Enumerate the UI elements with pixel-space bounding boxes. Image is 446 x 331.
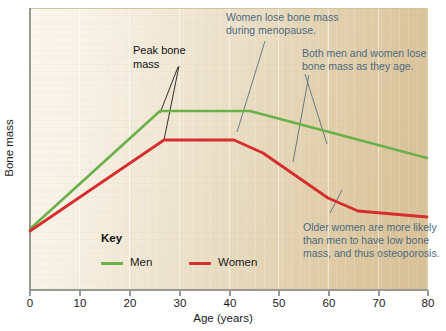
leader-line-aging-to-women	[293, 75, 309, 162]
annotation-osteoporosis: Older women are more likelythan men to h…	[303, 221, 440, 260]
annotation-peak-line1: Peak bone	[133, 44, 186, 56]
annotation-peak-bone-mass: Peak bonemass	[133, 44, 186, 71]
annotation-osteoporosis-line2: than men to have low bone	[303, 234, 429, 246]
leader-line-menopause	[237, 41, 265, 132]
series-line-women	[30, 140, 427, 231]
leader-line-peak-to-men	[160, 67, 178, 113]
annotation-aging-line2: bone mass as they age.	[302, 60, 414, 72]
annotation-menopause-line2: during menopause.	[226, 24, 316, 36]
legend-swatch-men	[101, 262, 123, 265]
annotation-menopause-line1: Women lose bone mass	[226, 11, 338, 23]
legend-label-men: Men	[130, 256, 152, 268]
annotation-osteoporosis-line1: Older women are more likely	[303, 221, 437, 233]
legend-swatch-women	[189, 262, 211, 265]
annotation-peak-line2: mass	[133, 58, 159, 70]
bone-mass-chart-figure: 0 10 20 30 40 50 60 70 80 Age (years) Bo…	[0, 0, 446, 331]
annotation-aging-line1: Both men and women lose	[302, 47, 426, 59]
leader-line-aging-to-men	[305, 74, 327, 144]
annotation-menopause: Women lose bone massduring menopause.	[226, 11, 338, 37]
annotation-aging: Both men and women losebone mass as they…	[302, 47, 426, 73]
leader-line-peak-to-women	[164, 66, 179, 140]
legend-title: Key	[101, 232, 122, 244]
legend-label-women: Women	[218, 256, 257, 268]
annotation-osteoporosis-line3: mass, and thus osteoporosis.	[303, 247, 440, 259]
